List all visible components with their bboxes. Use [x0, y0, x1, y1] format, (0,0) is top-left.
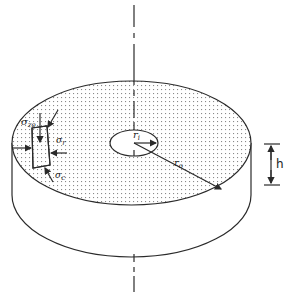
diagram-svg	[0, 0, 293, 304]
label-sigma-c: σc	[55, 171, 65, 182]
label-r-i: ri	[133, 130, 140, 142]
label-r-o: ro	[174, 158, 183, 170]
label-sigma-z0: σzo	[21, 117, 36, 129]
disc-diagram: σzo σr σc ri ro h	[0, 0, 293, 304]
label-sigma-r: σr	[56, 136, 66, 147]
label-h: h	[276, 158, 284, 170]
